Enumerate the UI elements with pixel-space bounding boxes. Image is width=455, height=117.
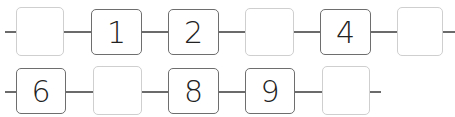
number-box-row2-1: 6 — [16, 68, 66, 114]
number-box-row2-2[interactable] — [93, 66, 142, 115]
number-box-row1-4[interactable] — [245, 8, 294, 56]
number-box-row1-1[interactable] — [16, 7, 64, 56]
row1-connector-line — [5, 31, 455, 33]
number-box-row1-3: 2 — [168, 9, 219, 55]
box-value: 4 — [336, 15, 355, 50]
box-value: 1 — [107, 15, 126, 50]
box-value: 2 — [184, 15, 203, 50]
number-box-row2-3: 8 — [168, 68, 219, 114]
number-box-row2-4: 9 — [245, 68, 295, 114]
number-box-row2-5[interactable] — [322, 66, 370, 115]
number-box-row1-5: 4 — [320, 9, 371, 55]
box-value: 9 — [260, 74, 279, 109]
number-box-row1-6[interactable] — [397, 7, 443, 56]
box-value: 6 — [31, 74, 50, 109]
box-value: 8 — [184, 74, 203, 109]
number-box-row1-2: 1 — [91, 9, 142, 55]
